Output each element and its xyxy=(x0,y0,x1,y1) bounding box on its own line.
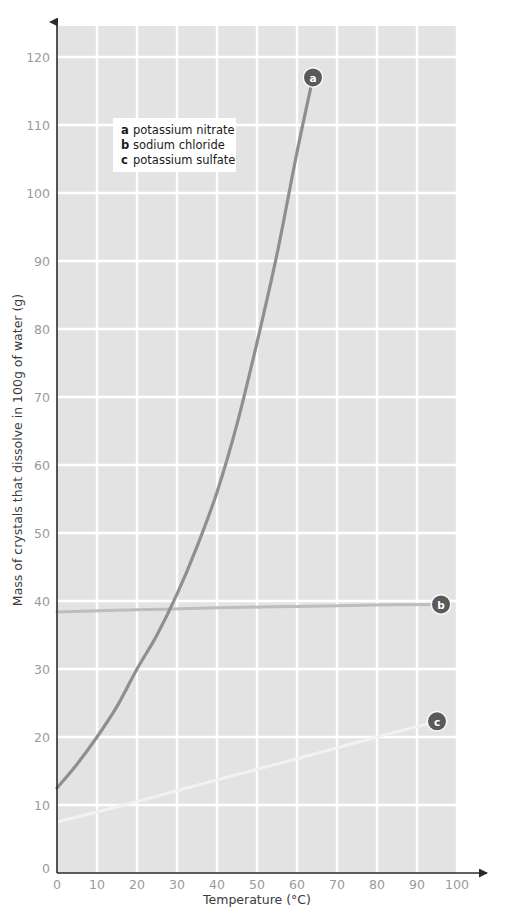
solubility-chart: 0102030405060708090100110120 01020304050… xyxy=(0,0,506,909)
x-tick-10: 10 xyxy=(89,877,105,892)
marker-label-a: a xyxy=(309,72,316,84)
x-tick-50: 50 xyxy=(249,877,265,892)
y-tick-80: 80 xyxy=(34,322,50,337)
x-tick-30: 30 xyxy=(169,877,185,892)
y-tick-50: 50 xyxy=(34,526,50,541)
x-tick-60: 60 xyxy=(289,877,305,892)
y-tick-110: 110 xyxy=(26,118,50,133)
y-tick-40: 40 xyxy=(34,594,50,609)
legend-label-c: potassium sulfate xyxy=(133,153,235,167)
legend-label-a: potassium nitrate xyxy=(133,123,235,137)
legend: apotassium nitratebsodium chloridecpotas… xyxy=(113,118,236,172)
x-tick-70: 70 xyxy=(329,877,345,892)
legend-letter-b: b xyxy=(121,138,129,152)
x-tick-90: 90 xyxy=(409,877,425,892)
legend-letter-c: c xyxy=(121,153,128,167)
y-axis-tick-labels: 0102030405060708090100110120 xyxy=(26,50,50,877)
x-tick-0: 0 xyxy=(53,877,61,892)
y-tick-60: 60 xyxy=(34,458,50,473)
x-axis-tick-labels: 0102030405060708090100 xyxy=(53,877,469,892)
y-tick-0: 0 xyxy=(42,861,50,876)
legend-label-b: sodium chloride xyxy=(133,138,225,152)
x-axis-title: Temperature (°C) xyxy=(202,892,311,907)
chart-canvas: 0102030405060708090100110120 01020304050… xyxy=(0,0,506,909)
x-tick-40: 40 xyxy=(209,877,225,892)
y-tick-70: 70 xyxy=(34,390,50,405)
marker-label-c: c xyxy=(434,716,440,728)
y-tick-30: 30 xyxy=(34,662,50,677)
marker-label-b: b xyxy=(437,599,445,611)
marker-c: c xyxy=(427,711,448,732)
y-tick-10: 10 xyxy=(34,798,50,813)
marker-a: a xyxy=(303,67,324,88)
y-axis-title: Mass of crystals that dissolve in 100g o… xyxy=(10,294,25,606)
y-tick-20: 20 xyxy=(34,730,50,745)
y-tick-100: 100 xyxy=(26,186,50,201)
marker-b: b xyxy=(431,594,452,615)
x-tick-20: 20 xyxy=(129,877,145,892)
y-tick-90: 90 xyxy=(34,254,50,269)
y-tick-120: 120 xyxy=(26,50,50,65)
x-tick-100: 100 xyxy=(445,877,469,892)
x-tick-80: 80 xyxy=(369,877,385,892)
legend-letter-a: a xyxy=(121,123,129,137)
